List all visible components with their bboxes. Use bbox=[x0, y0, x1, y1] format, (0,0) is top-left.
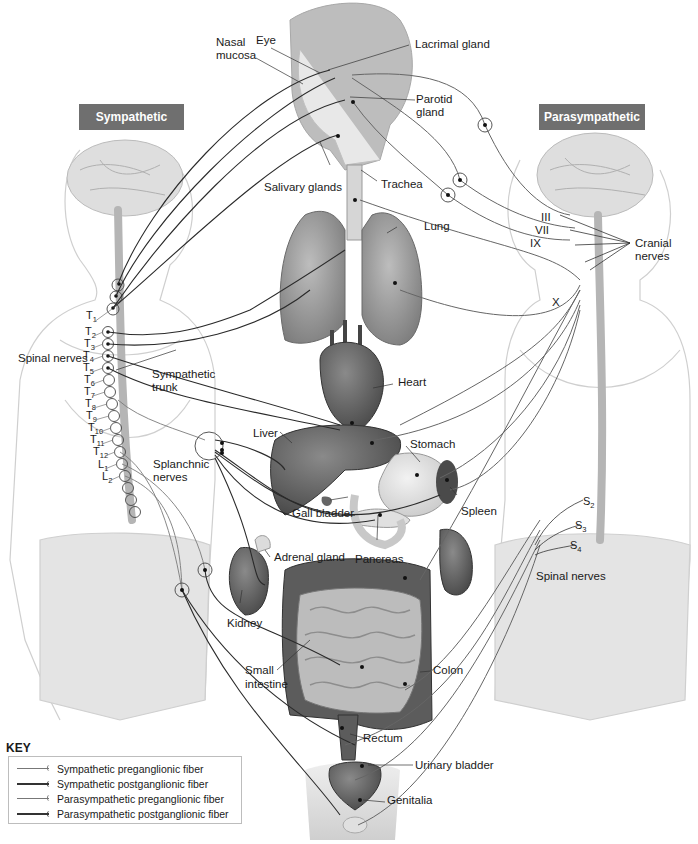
key-title: KEY bbox=[6, 741, 31, 755]
svg-text:S2: S2 bbox=[583, 495, 595, 510]
label-adrenal-gland: Adrenal gland bbox=[274, 551, 345, 563]
label-kidney: Kidney bbox=[227, 617, 262, 629]
label-sympathetic-trunk-1: Sympathetic bbox=[152, 368, 216, 380]
para-post-line-icon bbox=[17, 813, 49, 815]
label-trachea: Trachea bbox=[381, 178, 423, 190]
center-head bbox=[290, 3, 412, 240]
label-gall-bladder: Gall bladder bbox=[292, 507, 354, 519]
label-parotid-2: gland bbox=[416, 106, 444, 118]
label-nasal-1: Nasal bbox=[216, 36, 245, 48]
label-nasal-2: mucosa bbox=[216, 49, 257, 61]
label-cranial-1: Cranial bbox=[635, 237, 671, 249]
autonomic-nervous-system-diagram: T1 T2 T3 T4 T5 T6 T7 T8 T9 T10 T11 T12 L… bbox=[0, 0, 698, 844]
kidney-left bbox=[229, 547, 268, 615]
label-genitalia: Genitalia bbox=[387, 794, 433, 806]
trachea bbox=[347, 165, 362, 240]
label-salivary-glands: Salivary glands bbox=[264, 181, 342, 193]
symp-pre-line-icon bbox=[17, 768, 49, 769]
label-spinal-nerves-right: Spinal nerves bbox=[536, 570, 606, 582]
label-stomach: Stomach bbox=[410, 438, 455, 450]
key-item-symp-pre: Sympathetic preganglionic fiber bbox=[17, 761, 204, 776]
cn-ix: IX bbox=[530, 237, 541, 249]
left-brain bbox=[67, 140, 183, 216]
para-pre-line-icon bbox=[17, 798, 49, 799]
adrenal-gland bbox=[255, 536, 270, 552]
parasympathetic-header: Parasympathetic bbox=[539, 104, 645, 130]
label-cranial-2: nerves bbox=[635, 250, 670, 262]
heart bbox=[320, 320, 383, 430]
key-item-para-pre: Parasympathetic preganglionic fiber bbox=[17, 791, 224, 806]
gall-bladder bbox=[322, 497, 332, 506]
key-item-para-post: Parasympathetic postganglionic fiber bbox=[17, 806, 229, 821]
genitalia bbox=[343, 817, 367, 833]
label-small-intestine-1: Small bbox=[245, 664, 274, 676]
key-legend: Sympathetic preganglionic fiber Sympathe… bbox=[8, 756, 242, 824]
label-spleen: Spleen bbox=[461, 505, 497, 517]
left-body-figure bbox=[10, 150, 215, 720]
label-spinal-nerves-left: Spinal nerves bbox=[18, 352, 88, 364]
symp-post-line-icon bbox=[17, 783, 49, 785]
svg-text:S3: S3 bbox=[575, 519, 587, 534]
cn-x: X bbox=[552, 296, 560, 308]
svg-text:T1: T1 bbox=[86, 309, 97, 324]
label-urinary-bladder: Urinary bladder bbox=[415, 759, 494, 771]
label-liver: Liver bbox=[253, 427, 278, 439]
label-lacrimal-gland: Lacrimal gland bbox=[415, 38, 490, 50]
label-pancreas: Pancreas bbox=[355, 553, 404, 565]
label-small-intestine-2: intestine bbox=[245, 678, 288, 690]
sympathetic-header: Sympathetic bbox=[79, 104, 184, 130]
label-colon: Colon bbox=[433, 664, 463, 676]
svg-text:L2: L2 bbox=[102, 470, 112, 485]
label-heart: Heart bbox=[398, 376, 427, 388]
key-item-symp-post: Sympathetic postganglionic fiber bbox=[17, 776, 208, 791]
label-rectum: Rectum bbox=[363, 732, 403, 744]
label-splanchnic-1: Splanchnic bbox=[153, 458, 210, 470]
label-eye: Eye bbox=[256, 34, 276, 46]
cn-vii: VII bbox=[535, 224, 549, 236]
rectum bbox=[338, 715, 358, 760]
cn-iii: III bbox=[541, 211, 551, 223]
label-splanchnic-2: nerves bbox=[153, 471, 188, 483]
label-sympathetic-trunk-2: trunk bbox=[152, 381, 178, 393]
right-brain bbox=[537, 133, 653, 217]
label-parotid-1: Parotid bbox=[416, 93, 452, 105]
small-intestine bbox=[297, 588, 422, 713]
label-lung: Lung bbox=[424, 220, 450, 232]
